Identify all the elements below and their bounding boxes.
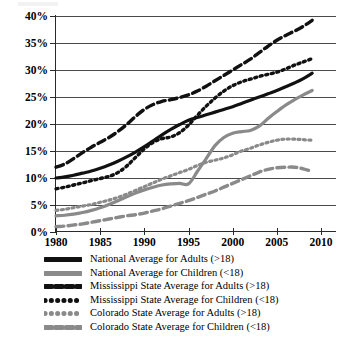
series-line-6 [56,167,312,227]
legend-label: National Average for Adults (>18) [90,252,234,265]
legend-item: Mississippi State Average for Adults (>1… [44,279,344,292]
legend-label: National Average for Children (<18) [90,266,243,279]
series-line-5 [56,139,312,210]
chart-legend: National Average for Adults (>18)Nationa… [0,252,346,347]
series-line-3 [56,20,312,167]
dashed-gray-line-swatch [44,320,82,333]
dashed-black-line-swatch [44,279,82,292]
legend-item: National Average for Adults (>18) [44,252,344,265]
legend-label: Mississippi State Average for Adults (>1… [90,279,269,292]
series-lines [0,0,346,250]
legend-item: Mississippi State Average for Children (… [44,293,344,306]
legend-label: Colorado State Average for Adults (>18) [90,306,260,319]
legend-item: Colorado State Average for Children (<18… [44,320,344,333]
legend-item: National Average for Children (<18) [44,266,344,279]
legend-label: Mississippi State Average for Children (… [90,293,279,306]
legend-item: Colorado State Average for Adults (>18) [44,306,344,319]
series-line-2 [56,91,312,216]
line-chart: 0%5%10%15%20%25%30%35%40% 19801985199019… [0,0,346,250]
dotted-black-line-swatch [44,293,82,306]
series-line-1 [56,73,312,178]
chart-page: 0%5%10%15%20%25%30%35%40% 19801985199019… [0,0,346,347]
legend-label: Colorado State Average for Children (<18… [90,320,270,333]
solid-gray-line-swatch [44,266,82,279]
solid-black-line-swatch [44,252,82,265]
dotted-gray-line-swatch [44,306,82,319]
